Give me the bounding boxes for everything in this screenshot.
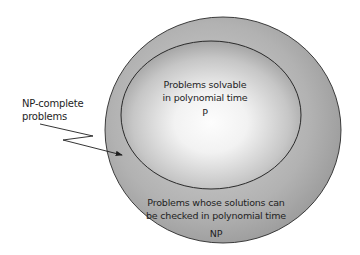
np-complete-label: NP-complete problems	[22, 97, 83, 123]
p-description-line1: Problems solvable	[163, 78, 248, 91]
p-label: P	[202, 106, 208, 119]
np-description-line1: Problems whose solutions can	[146, 196, 286, 209]
p-description-line2: in polynomial time	[163, 91, 248, 104]
p-description: Problems solvable in polynomial time	[163, 78, 248, 104]
p-set-region	[121, 41, 301, 189]
np-description-line2: be checked in polynomial time	[146, 209, 286, 222]
np-complete-label-line2: problems	[22, 110, 83, 123]
np-label: NP	[210, 227, 222, 240]
np-complete-label-line1: NP-complete	[22, 97, 83, 110]
np-description: Problems whose solutions can be checked …	[146, 196, 286, 222]
